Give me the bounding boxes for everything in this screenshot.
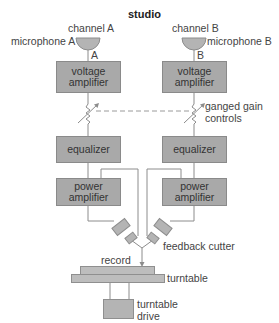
- ganged-gain-controls-label: ganged gain controls: [205, 100, 263, 124]
- channel-a-label: channel A: [68, 22, 114, 34]
- turntable-label: turntable: [167, 272, 208, 284]
- microphone-a-label: microphone A: [11, 35, 75, 47]
- channel-b-label: channel B: [172, 22, 219, 34]
- gain-control-a-icon: [78, 104, 98, 124]
- equalizer-a: equalizer: [56, 136, 121, 163]
- block-label: amplifier: [175, 77, 215, 88]
- diagram-title: studio: [128, 8, 161, 20]
- gain-control-b-icon: [184, 104, 204, 124]
- voltage-amplifier-a: voltageamplifier: [56, 61, 121, 93]
- turntable-drive-label: turntable drive: [137, 298, 178, 322]
- line-b-label: B: [197, 49, 204, 61]
- power-amplifier-a: poweramplifier: [56, 178, 121, 206]
- feedback-cutter-label: feedback cutter: [163, 240, 235, 252]
- label-line: drive: [137, 310, 178, 322]
- voltage-amplifier-b: voltageamplifier: [162, 61, 227, 93]
- power-amplifier-b: poweramplifier: [162, 178, 227, 206]
- microphone-b-label: microphone B: [207, 35, 272, 47]
- label-line: turntable: [137, 298, 178, 310]
- block-label: amplifier: [175, 192, 215, 203]
- record-label: record: [101, 254, 131, 266]
- block-label: amplifier: [69, 77, 109, 88]
- line-a-label: A: [91, 49, 98, 61]
- label-line: ganged gain: [205, 100, 263, 112]
- cutter-head-left-icon: [112, 219, 137, 244]
- equalizer-b: equalizer: [162, 136, 227, 163]
- turntable: [71, 274, 165, 283]
- block-label: amplifier: [69, 192, 109, 203]
- label-line: controls: [205, 112, 263, 124]
- turntable-drive: [103, 299, 134, 319]
